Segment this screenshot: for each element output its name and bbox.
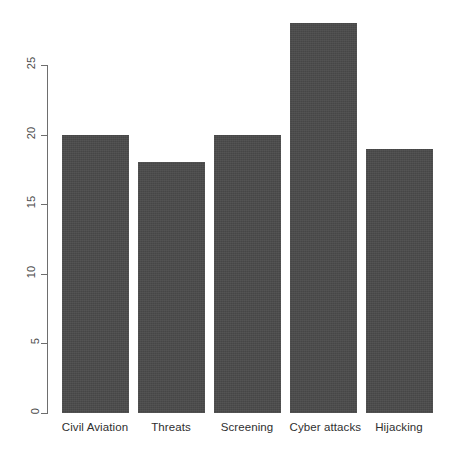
clipped-caption [8, 446, 308, 456]
x-axis-category-label: Threats [138, 421, 205, 433]
bar [62, 135, 129, 413]
bar-chart-figure: 0510152025 Civil AviationThreatsScreenin… [0, 0, 462, 456]
x-axis-category-label: Civil Aviation [62, 421, 129, 433]
bar [366, 149, 433, 413]
bars-layer [0, 0, 462, 456]
x-axis-category-label: Cyber attacks [290, 421, 357, 433]
x-axis-category-label: Screening [214, 421, 281, 433]
bar [138, 162, 205, 413]
plot-area: 0510152025 Civil AviationThreatsScreenin… [0, 0, 462, 456]
bar [290, 23, 357, 413]
x-axis-category-label: Hijacking [366, 421, 433, 433]
bar [214, 135, 281, 413]
